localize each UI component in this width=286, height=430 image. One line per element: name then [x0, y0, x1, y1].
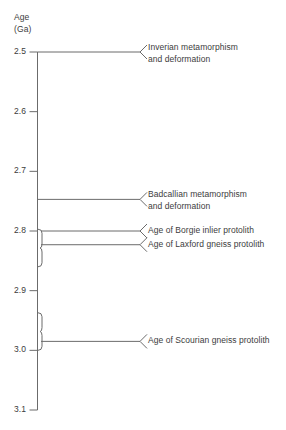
bracket-icon-laxford [140, 238, 147, 252]
age-range-brace-brace-upper [38, 229, 42, 267]
tick-label: 2.6 [4, 106, 26, 116]
tick-label: 3.1 [4, 404, 26, 414]
annotation-line-1: Inverian metamorphism [148, 42, 238, 54]
tick-label: 2.5 [4, 46, 26, 56]
annotation-borgie: Age of Borgie inlier protolith [148, 225, 254, 237]
annotation-scourian: Age of Scourian gneiss protolith [148, 335, 270, 347]
annotation-laxford: Age of Laxford gneiss protolith [148, 239, 264, 251]
annotation-badcallian: Badcallian metamorphismand deformation [148, 189, 247, 212]
tick-label: 2.9 [4, 285, 26, 295]
axis-graphic [0, 0, 286, 430]
tick-label: 3.0 [4, 344, 26, 354]
bracket-icon-scourian [140, 334, 147, 348]
bracket-icon-inverian [140, 45, 147, 59]
annotation-line-2: and deformation [148, 201, 247, 213]
tick-label: 2.8 [4, 225, 26, 235]
tick-label: 2.7 [4, 165, 26, 175]
annotation-line-1: Age of Scourian gneiss protolith [148, 335, 270, 347]
annotation-line-1: Age of Borgie inlier protolith [148, 225, 254, 237]
annotation-line-1: Badcallian metamorphism [148, 189, 247, 201]
annotation-line-1: Age of Laxford gneiss protolith [148, 239, 264, 251]
annotation-inverian: Inverian metamorphismand deformation [148, 42, 238, 65]
geological-time-diagram: Age (Ga) 2.52.62.72.82.93.03.1 Inverian … [0, 0, 286, 430]
bracket-icon-borgie [140, 224, 147, 238]
annotation-line-2: and deformation [148, 54, 238, 66]
age-range-brace-brace-lower [38, 313, 42, 351]
bracket-icon-badcallian [140, 192, 147, 206]
